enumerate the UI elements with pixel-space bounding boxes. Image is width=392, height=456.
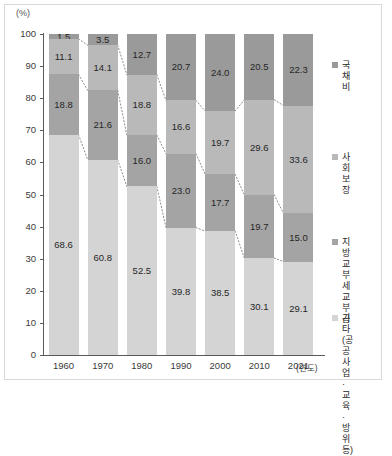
bar-2000[interactable]: 24.019.717.738.5: [205, 34, 235, 355]
bar-segment[interactable]: 60.8: [88, 160, 118, 355]
segment-value-label: 3.5: [96, 35, 109, 45]
legend-swatch-icon: [332, 239, 338, 245]
segment-value-label: 22.3: [289, 65, 308, 75]
segment-value-label: 20.5: [250, 62, 269, 72]
legend-label: 사회보장: [342, 152, 350, 196]
bar-segment[interactable]: 24.0: [205, 34, 235, 111]
bar-segment[interactable]: 11.1: [49, 39, 79, 75]
y-axis-tick-mark: [40, 227, 44, 228]
legend-item-local[interactable]: 지방교부세 교부금: [332, 237, 350, 325]
bar-1990[interactable]: 20.716.623.039.8: [166, 34, 196, 355]
bar-segment[interactable]: 16.0: [127, 135, 157, 186]
bar-segment[interactable]: 20.5: [244, 34, 274, 100]
y-axis-tick-mark: [40, 130, 44, 131]
bar-1960[interactable]: 1.511.118.868.6: [49, 34, 79, 355]
legend-item-debt[interactable]: 국채비: [332, 60, 350, 93]
bar-segment[interactable]: 33.6: [283, 106, 313, 214]
bar-segment[interactable]: 16.6: [166, 100, 196, 153]
y-axis-tick-mark: [40, 195, 44, 196]
bar-segment[interactable]: 22.3: [283, 34, 313, 106]
bar-segment[interactable]: 12.7: [127, 34, 157, 75]
segment-value-label: 39.8: [172, 287, 191, 297]
segment-value-label: 29.6: [250, 143, 269, 153]
bar-segment[interactable]: 19.7: [244, 195, 274, 258]
y-axis-tick-mark: [40, 34, 44, 35]
segment-value-label: 29.1: [289, 304, 308, 314]
segment-value-label: 23.0: [172, 186, 191, 196]
y-axis-tick-label: 60: [10, 156, 36, 167]
segment-value-label: 52.5: [133, 266, 152, 276]
bar-segment[interactable]: 20.7: [166, 34, 196, 100]
legend-label: 지방교부세 교부금: [342, 237, 350, 325]
segment-value-label: 19.7: [211, 138, 230, 148]
segment-value-label: 19.7: [250, 222, 269, 232]
legend-item-social[interactable]: 사회보장: [332, 152, 350, 196]
x-axis-unit-label: (연도): [296, 361, 318, 373]
y-axis-tick-mark: [40, 323, 44, 324]
legend-item-other[interactable]: 기타(공공사업 · 교육 · 방위 등): [332, 313, 353, 456]
bar-segment[interactable]: 18.8: [127, 75, 157, 135]
y-axis-tick-label: 100: [10, 28, 36, 39]
bar-segment[interactable]: 21.6: [88, 90, 118, 159]
bar-segment[interactable]: 17.7: [205, 174, 235, 231]
y-axis-tick-label: 20: [10, 285, 36, 296]
bar-segment[interactable]: 39.8: [166, 228, 196, 356]
y-axis-tick-label: 30: [10, 253, 36, 264]
segment-value-label: 16.6: [172, 122, 191, 132]
bar-segment[interactable]: 15.0: [283, 213, 313, 261]
bar-segment[interactable]: 3.5: [88, 34, 118, 45]
bar-segment[interactable]: 29.1: [283, 262, 313, 355]
legend-label: 국채비: [342, 60, 350, 93]
segment-value-label: 30.1: [250, 302, 269, 312]
y-axis-tick-label: 0: [10, 349, 36, 360]
bar-segment[interactable]: 68.6: [49, 135, 79, 355]
segment-value-label: 21.6: [93, 120, 112, 130]
segment-value-label: 38.5: [211, 288, 230, 298]
segment-value-label: 68.6: [54, 240, 73, 250]
bar-2021[interactable]: 22.333.615.029.1: [283, 34, 313, 355]
legend-label: 기타(공공사업 · 교육 · 방위 등): [342, 313, 353, 456]
plot-area: 10090807060504030201001.511.118.868.63.5…: [44, 34, 318, 355]
bar-segment[interactable]: 14.1: [88, 45, 118, 90]
segment-value-label: 18.8: [133, 100, 152, 110]
bar-segment[interactable]: 30.1: [244, 258, 274, 355]
y-axis-tick-mark: [40, 98, 44, 99]
segment-value-label: 11.1: [55, 52, 73, 62]
y-axis-tick-label: 50: [10, 189, 36, 200]
bar-segment[interactable]: 38.5: [205, 231, 235, 355]
bar-segment[interactable]: 23.0: [166, 154, 196, 228]
segment-value-label: 20.7: [172, 62, 191, 72]
bar-segment[interactable]: 52.5: [127, 186, 157, 355]
y-axis-tick-mark: [40, 259, 44, 260]
y-axis-tick-label: 70: [10, 124, 36, 135]
legend-swatch-icon: [332, 315, 338, 321]
bar-2010[interactable]: 20.529.619.730.1: [244, 34, 274, 355]
legend-swatch-icon: [332, 62, 338, 68]
segment-value-label: 14.1: [93, 63, 112, 73]
segment-value-label: 60.8: [93, 253, 112, 263]
segment-value-label: 15.0: [289, 233, 308, 243]
bar-1970[interactable]: 3.514.121.660.8: [88, 34, 118, 355]
segment-value-label: 33.6: [289, 155, 308, 165]
segment-value-label: 24.0: [211, 68, 230, 78]
legend-swatch-icon: [332, 154, 338, 160]
bar-1980[interactable]: 12.718.816.052.5: [127, 34, 157, 355]
y-axis-tick-label: 10: [10, 317, 36, 328]
y-axis-tick-mark: [40, 66, 44, 67]
segment-value-label: 16.0: [133, 156, 152, 166]
y-axis-tick-mark: [40, 355, 44, 356]
y-axis-unit-label: (%): [16, 8, 30, 18]
y-axis-tick-label: 80: [10, 92, 36, 103]
segment-value-label: 17.7: [211, 198, 230, 208]
y-axis-tick-mark: [40, 162, 44, 163]
segment-value-label: 12.7: [133, 50, 152, 60]
segment-value-label: 18.8: [54, 100, 73, 110]
bar-segment[interactable]: 19.7: [205, 111, 235, 174]
bar-segment[interactable]: 18.8: [49, 74, 79, 134]
y-axis-tick-mark: [40, 291, 44, 292]
y-axis-tick-label: 40: [10, 221, 36, 232]
y-axis-tick-label: 90: [10, 60, 36, 71]
bar-segment[interactable]: 29.6: [244, 100, 274, 195]
